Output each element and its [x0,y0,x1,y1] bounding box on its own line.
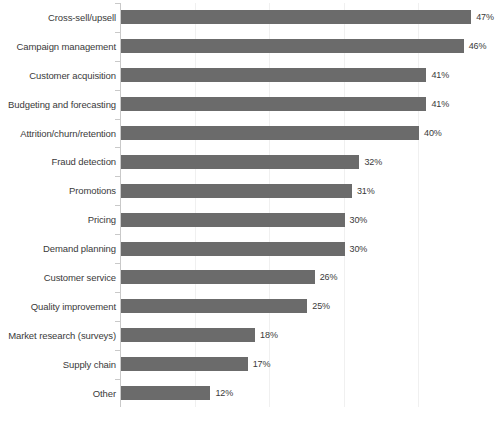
bar-row: Other12% [0,379,502,408]
bar[interactable] [121,10,471,24]
axis-tick [115,32,120,33]
bar-value-label: 32% [364,157,382,167]
bar-container: 41% [121,68,502,82]
bar-row: Demand planning30% [0,234,502,263]
bar-row: Customer service26% [0,263,502,292]
bar[interactable] [121,242,345,256]
category-label: Quality improvement [0,301,116,312]
axis-tick [115,292,120,293]
bar[interactable] [121,386,210,400]
axis-tick [115,321,120,322]
bar-value-label: 47% [476,12,494,22]
category-label: Pricing [0,214,116,225]
category-label: Demand planning [0,243,116,254]
category-label: Campaign management [0,41,116,52]
axis-tick [115,147,120,148]
bar-container: 12% [121,386,502,400]
category-label: Fraud detection [0,156,116,167]
bar-row: Budgeting and forecasting41% [0,90,502,119]
bar-value-label: 31% [357,186,375,196]
bar[interactable] [121,213,345,227]
bar-container: 40% [121,126,502,140]
bar-value-label: 12% [215,388,233,398]
bar-row: Campaign management46% [0,32,502,61]
bar-row: Market research (surveys)18% [0,321,502,350]
bar-row: Attrition/churn/retention40% [0,119,502,148]
bar-value-label: 18% [260,330,278,340]
bar-container: 18% [121,328,502,342]
bar[interactable] [121,184,352,198]
plot-area: Cross-sell/upsell47%Campaign management4… [0,0,502,423]
bar-row: Promotions31% [0,176,502,205]
bar-container: 32% [121,155,502,169]
bar[interactable] [121,270,315,284]
bar[interactable] [121,68,426,82]
bar-container: 17% [121,357,502,371]
category-label: Market research (surveys) [0,330,116,341]
category-label: Attrition/churn/retention [0,128,116,139]
axis-tick [115,263,120,264]
bar-row: Customer acquisition41% [0,61,502,90]
bar-container: 46% [121,39,502,53]
bar-row: Pricing30% [0,205,502,234]
bar-value-label: 46% [469,41,487,51]
axis-tick [115,234,120,235]
bar-container: 31% [121,184,502,198]
axis-tick [115,176,120,177]
bar[interactable] [121,39,464,53]
axis-tick [115,379,120,380]
bar-value-label: 30% [350,244,368,254]
bar-row: Quality improvement25% [0,292,502,321]
bar-container: 47% [121,10,502,24]
bar-value-label: 17% [253,359,271,369]
category-label: Customer service [0,272,116,283]
axis-tick [115,61,120,62]
bar-row: Fraud detection32% [0,147,502,176]
bar-value-label: 41% [431,70,449,80]
bar-value-label: 25% [312,301,330,311]
bar-row: Supply chain17% [0,350,502,379]
bar-container: 30% [121,242,502,256]
bar[interactable] [121,357,248,371]
bar[interactable] [121,328,255,342]
bar-value-label: 40% [424,128,442,138]
bar-value-label: 41% [431,99,449,109]
bar-container: 26% [121,270,502,284]
bar-rows: Cross-sell/upsell47%Campaign management4… [0,3,502,407]
bar-chart: Cross-sell/upsell47%Campaign management4… [0,0,502,423]
axis-tick [115,350,120,351]
bar[interactable] [121,97,426,111]
bar-value-label: 30% [350,215,368,225]
axis-tick [115,205,120,206]
category-label: Budgeting and forecasting [0,99,116,110]
bar[interactable] [121,155,359,169]
bar[interactable] [121,126,419,140]
bar-container: 41% [121,97,502,111]
category-label: Cross-sell/upsell [0,12,116,23]
category-label: Promotions [0,185,116,196]
bar[interactable] [121,299,307,313]
bar-value-label: 26% [320,272,338,282]
category-label: Other [0,388,116,399]
bar-row: Cross-sell/upsell47% [0,3,502,32]
category-label: Customer acquisition [0,70,116,81]
axis-tick [115,119,120,120]
axis-tick [115,3,120,4]
axis-tick [115,90,120,91]
bar-container: 30% [121,213,502,227]
bar-container: 25% [121,299,502,313]
category-label: Supply chain [0,359,116,370]
